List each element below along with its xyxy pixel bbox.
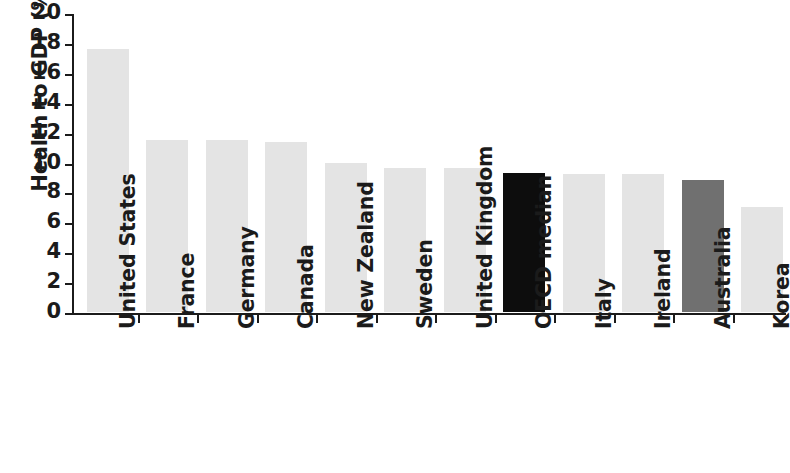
- y-tick-label: 0: [46, 300, 61, 322]
- x-axis-label-italy: Italy: [592, 278, 616, 329]
- x-axis-label-new-zealand: New Zealand: [354, 181, 378, 329]
- y-tick-mark: [65, 223, 72, 225]
- y-tick-mark: [65, 164, 72, 166]
- y-tick-label: 20: [32, 1, 61, 23]
- y-tick-label: 2: [46, 270, 61, 292]
- y-tick-mark: [65, 283, 72, 285]
- y-tick-label: 14: [32, 91, 61, 113]
- x-axis-label-korea: Korea: [770, 263, 790, 329]
- x-axis-label-sweden: Sweden: [413, 239, 437, 329]
- y-tick-label: 4: [46, 240, 61, 262]
- x-axis-label-ireland: Ireland: [651, 249, 675, 329]
- y-tick-label: 6: [46, 210, 61, 232]
- y-tick-label: 10: [32, 151, 61, 173]
- y-tick-label: 16: [32, 61, 61, 83]
- bar-chart: Health to GDP (%) 20181614121086420 Unit…: [0, 0, 790, 473]
- y-tick-label: 12: [32, 121, 61, 143]
- x-axis-label-oecd-median: OECD median: [532, 175, 556, 329]
- y-tick-mark: [65, 193, 72, 195]
- y-tick-mark: [65, 44, 72, 46]
- y-tick-label: 8: [46, 180, 61, 202]
- y-tick-mark: [65, 134, 72, 136]
- x-axis-label-canada: Canada: [294, 244, 318, 329]
- y-tick-mark: [65, 104, 72, 106]
- x-axis-label-germany: Germany: [235, 226, 259, 329]
- x-axis-label-united-kingdom: United Kingdom: [473, 146, 497, 329]
- y-tick-mark: [65, 313, 72, 315]
- y-tick-mark: [65, 253, 72, 255]
- y-tick-mark: [65, 74, 72, 76]
- y-tick-mark: [65, 14, 72, 16]
- y-tick-label: 18: [32, 31, 61, 53]
- x-axis-label-australia: Australia: [711, 227, 735, 330]
- x-axis-label-united-states: United States: [116, 174, 140, 329]
- y-axis-line: [72, 14, 74, 314]
- x-axis-label-france: France: [175, 253, 199, 329]
